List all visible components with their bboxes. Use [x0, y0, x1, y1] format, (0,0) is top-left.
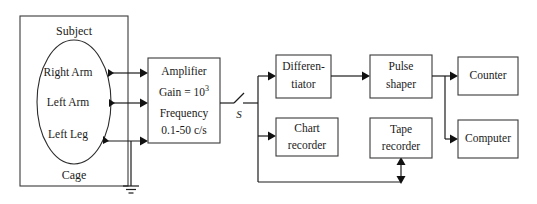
tape-recorder-label-line2: recorder: [382, 140, 420, 152]
amplifier-frequency-label: Frequency: [160, 107, 209, 120]
arrowhead-to-counter: [450, 72, 458, 81]
block-diagram-canvas: Subject Cage Right Arm Left Arm Left Leg…: [0, 0, 537, 204]
electrode-label-right-arm: Right Arm: [44, 66, 93, 79]
arrowhead-left-arm-to-amplifier: [140, 99, 148, 108]
differentiator-label-line1: Differen-: [282, 60, 325, 72]
computer-label: Computer: [465, 132, 511, 145]
switch-label: S: [236, 108, 242, 120]
arrowhead-to-differentiator: [268, 72, 276, 81]
amplifier-gain-base: Gain = 10: [159, 86, 205, 98]
counter-label: Counter: [469, 69, 506, 81]
chart-recorder-label-line2: recorder: [288, 139, 326, 151]
amplifier-gain-label: Gain = 103: [159, 84, 209, 98]
pulse-shaper-label-line2: shaper: [386, 78, 416, 91]
amplifier-title-label: Amplifier: [161, 65, 207, 78]
arrowhead-left-leg-to-amplifier: [140, 137, 148, 146]
arrowhead-to-chart-recorder: [268, 132, 276, 141]
amplifier-gain-exponent: 3: [205, 84, 209, 93]
cage-label: Cage: [62, 168, 87, 182]
diagram-svg: Subject Cage Right Arm Left Arm Left Leg…: [0, 0, 537, 204]
arrowhead-tape-recorder-to-bus: [397, 176, 406, 184]
electrode-label-left-leg: Left Leg: [48, 128, 88, 141]
tape-recorder-label-line1: Tape: [390, 123, 412, 136]
pulse-shaper-label-line1: Pulse: [389, 60, 414, 72]
arrowhead-to-computer: [450, 135, 458, 144]
arrowhead-to-pulse-shaper: [362, 72, 370, 81]
arrowhead-right-arm-to-amplifier: [140, 69, 148, 78]
chart-recorder-label-line1: Chart: [294, 122, 320, 134]
differentiator-label-line2: tiator: [291, 78, 315, 90]
electrode-label-left-arm: Left Arm: [47, 96, 90, 108]
subject-label: Subject: [56, 24, 93, 38]
switch-blade[interactable]: [234, 93, 244, 103]
amplifier-frequency-range-label: 0.1-50 c/s: [161, 124, 207, 136]
